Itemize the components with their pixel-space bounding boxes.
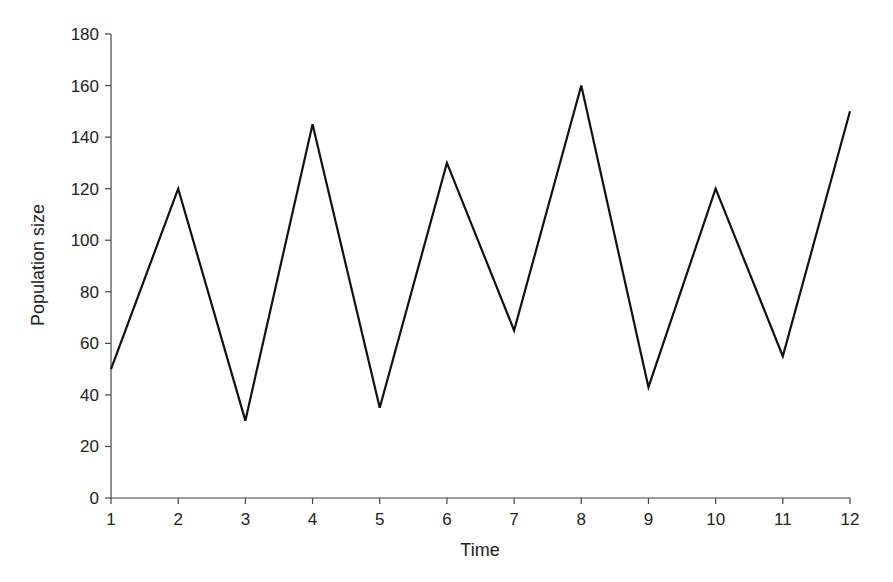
x-tick-label: 1	[106, 510, 115, 529]
series-line	[111, 86, 850, 421]
line-chart: 020406080100120140160180 123456789101112…	[0, 0, 893, 582]
x-tick-label: 6	[442, 510, 451, 529]
x-axis-title: Time	[460, 540, 499, 560]
x-tick-label: 9	[644, 510, 653, 529]
x-tick-label: 3	[241, 510, 250, 529]
y-tick-label: 180	[71, 25, 99, 44]
x-tick-label: 5	[375, 510, 384, 529]
y-tick-label: 120	[71, 180, 99, 199]
y-axis: 020406080100120140160180	[71, 25, 111, 508]
x-tick-label: 8	[577, 510, 586, 529]
x-axis: 123456789101112	[106, 498, 859, 529]
data-series	[111, 86, 850, 421]
x-tick-label: 2	[173, 510, 182, 529]
y-tick-label: 60	[80, 334, 99, 353]
y-tick-label: 100	[71, 231, 99, 250]
y-tick-label: 140	[71, 128, 99, 147]
y-tick-label: 40	[80, 386, 99, 405]
y-tick-label: 160	[71, 77, 99, 96]
y-axis-title: Population size	[28, 204, 48, 326]
y-tick-label: 80	[80, 283, 99, 302]
y-tick-label: 20	[80, 437, 99, 456]
y-tick-label: 0	[90, 489, 99, 508]
x-tick-label: 11	[774, 510, 792, 529]
x-tick-label: 10	[706, 510, 725, 529]
x-tick-label: 7	[509, 510, 518, 529]
x-tick-label: 12	[841, 510, 860, 529]
x-tick-label: 4	[308, 510, 317, 529]
